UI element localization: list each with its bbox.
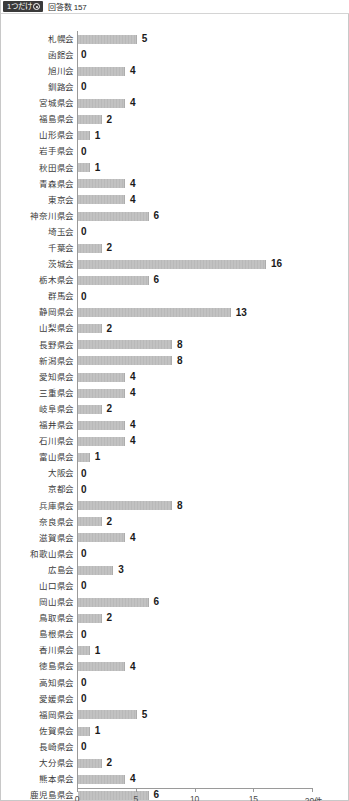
bar-fill (78, 260, 266, 269)
question-header: 1つだけ 回答数157 (1, 0, 349, 14)
bar-value-label: 4 (130, 66, 136, 76)
bar-category-label: 大分県会 (1, 759, 74, 768)
bar-container: 4 (78, 385, 136, 401)
axis-tick (253, 788, 254, 792)
bar-category-label: 栃木県会 (1, 276, 74, 285)
bar-fill (78, 115, 102, 124)
bar-fill (78, 533, 125, 542)
bar-value-label: 4 (130, 388, 136, 398)
bar-row-list: 札幌会5函館会0旭川会4釧路会0宮城県会4福島県会2山形県会1岩手県会0秋田県会… (1, 31, 348, 801)
bar-value-label: 0 (81, 292, 87, 302)
bar-container: 4 (78, 530, 136, 546)
bar-container: 4 (78, 63, 136, 79)
bar-container: 1 (78, 128, 100, 144)
axis-tick-label: 0 (75, 794, 80, 801)
bar-value-label: 0 (81, 469, 87, 479)
bar-fill (78, 775, 125, 784)
bar-row: 香川県会1 (1, 643, 348, 659)
bar-value-label: 6 (154, 275, 160, 285)
bar-value-label: 0 (81, 581, 87, 591)
question-type-label: 1つだけ (7, 3, 31, 11)
bar-value-label: 0 (81, 485, 87, 495)
bar-category-label: 愛媛県会 (1, 695, 74, 704)
bar-category-label: 旭川会 (1, 67, 74, 76)
bar-category-label: 高知県会 (1, 679, 74, 688)
bar-row: 宮城県会4 (1, 95, 348, 111)
bar-value-label: 0 (81, 678, 87, 688)
bar-value-label: 1 (95, 726, 101, 736)
bar-value-label: 1 (95, 646, 101, 656)
bar-value-label: 2 (107, 517, 113, 527)
axis-tick (136, 788, 137, 792)
bar-value-label: 8 (177, 356, 183, 366)
bar-container: 2 (78, 111, 112, 127)
bar-value-label: 0 (81, 549, 87, 559)
bar-container: 1 (78, 160, 100, 176)
bar-fill (78, 727, 90, 736)
axis-tick-label: 20件 (305, 794, 323, 801)
bar-category-label: 熊本県会 (1, 775, 74, 784)
bar-value-label: 1 (95, 131, 101, 141)
bar-row: 青森県会4 (1, 176, 348, 192)
bar-value-label: 4 (130, 195, 136, 205)
bar-fill (78, 566, 113, 575)
bar-row: 広島会3 (1, 562, 348, 578)
bar-value-label: 2 (107, 243, 113, 253)
bar-container: 6 (78, 208, 159, 224)
bar-row: 神奈川県会6 (1, 208, 348, 224)
bar-value-label: 6 (154, 597, 160, 607)
bar-category-label: 徳島県会 (1, 662, 74, 671)
axis-tick-label: 5 (133, 794, 138, 801)
bar-value-label: 0 (81, 630, 87, 640)
bar-category-label: 福井県会 (1, 421, 74, 430)
bar-row: 大分県会2 (1, 755, 348, 771)
bar-container: 2 (78, 240, 112, 256)
bar-fill (78, 614, 102, 623)
bar-fill (78, 453, 90, 462)
bar-row: 札幌会5 (1, 31, 348, 47)
bar-row: 長野県会8 (1, 337, 348, 353)
bar-row: 岡山県会6 (1, 594, 348, 610)
bar-row: 函館会0 (1, 47, 348, 63)
bar-container: 6 (78, 272, 159, 288)
bar-value-label: 5 (142, 710, 148, 720)
bar-category-label: 静岡県会 (1, 308, 74, 317)
bar-container: 6 (78, 594, 159, 610)
bar-value-label: 4 (130, 98, 136, 108)
bar-category-label: 長崎県会 (1, 743, 74, 752)
bar-container: 8 (78, 498, 183, 514)
bar-row: 長崎県会0 (1, 739, 348, 755)
bar-value-label: 13 (236, 308, 247, 318)
bar-row: 旭川会4 (1, 63, 348, 79)
bar-category-label: 秋田県会 (1, 164, 74, 173)
bar-value-label: 8 (177, 501, 183, 511)
bar-container: 0 (78, 79, 87, 95)
bar-row: 東京会4 (1, 192, 348, 208)
bar-container: 8 (78, 353, 183, 369)
bar-fill (78, 598, 149, 607)
bar-container: 1 (78, 723, 100, 739)
bar-row: 京都会0 (1, 482, 348, 498)
bar-category-label: 宮城県会 (1, 99, 74, 108)
bar-row: 島根県会0 (1, 626, 348, 642)
bar-row: 三重県会4 (1, 385, 348, 401)
bar-value-label: 0 (81, 742, 87, 752)
bar-fill (78, 405, 102, 414)
bar-category-label: 奈良県会 (1, 518, 74, 527)
bar-row: 群馬会0 (1, 289, 348, 305)
bar-value-label: 5 (142, 34, 148, 44)
bar-category-label: 岩手県会 (1, 147, 74, 156)
bar-value-label: 2 (107, 613, 113, 623)
bar-fill (78, 710, 137, 719)
bar-container: 1 (78, 643, 100, 659)
bar-category-label: 滋賀県会 (1, 534, 74, 543)
bar-category-label: 三重県会 (1, 389, 74, 398)
axis-tick (195, 788, 196, 792)
bar-value-label: 2 (107, 404, 113, 414)
bar-value-label: 0 (81, 147, 87, 157)
bar-container: 2 (78, 401, 112, 417)
bar-fill (78, 437, 125, 446)
bar-fill (78, 517, 102, 526)
bar-container: 0 (78, 578, 87, 594)
bar-container: 4 (78, 771, 136, 787)
